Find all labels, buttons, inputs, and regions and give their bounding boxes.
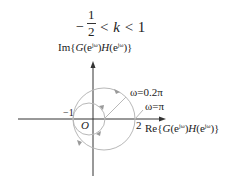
real-end: )} (210, 122, 219, 134)
real-body: (e (170, 122, 179, 134)
omega-02pi-label: ω=0.2π (130, 86, 163, 98)
outer-loop-lower-arrow-icon (77, 140, 82, 146)
imag-axis-arrow-icon (91, 61, 96, 68)
imag-body: (e (83, 41, 92, 53)
real-axis-arrow-icon (159, 117, 166, 122)
imag-axis-label: Im{G(ejω)H(ejω)} (58, 41, 132, 53)
tick-minus-one: −1 (63, 107, 74, 118)
nyquist-plot (0, 0, 225, 185)
omega-pi-leader (135, 110, 143, 119)
omega-02pi-line (104, 97, 126, 119)
omega-pi-label: ω=π (145, 100, 164, 112)
imag-prefix: Im{ (58, 41, 76, 53)
real-prefix: Re{ (145, 122, 163, 134)
imag-end: )} (123, 41, 132, 53)
real-body2: (e (196, 122, 205, 134)
origin-label: O (81, 119, 89, 131)
tick-two: 2 (136, 119, 142, 131)
real-axis-label: Re{G(ejω)H(ejω)} (145, 122, 219, 134)
imag-body2: (e (109, 41, 118, 53)
